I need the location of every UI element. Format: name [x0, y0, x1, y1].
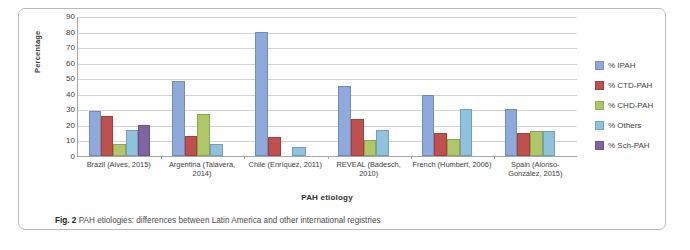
bar-group — [244, 17, 327, 156]
y-axis-tick-label: 30 — [51, 106, 75, 114]
bar-ipah[interactable] — [505, 109, 518, 156]
bar-sch-pah[interactable] — [138, 125, 150, 156]
legend-swatch-icon — [595, 101, 604, 110]
bar-others[interactable] — [543, 131, 556, 156]
y-axis-tick-label: 90 — [51, 13, 75, 21]
legend-swatch-icon — [595, 81, 604, 90]
x-axis-title: PAH etiology — [77, 193, 577, 202]
bar-group — [161, 17, 244, 156]
x-axis-tickmark — [244, 156, 245, 159]
figure-caption-text: PAH etiologies: differences between Lati… — [79, 216, 381, 225]
x-axis-category-label: Chile (Enríquez, 2011) — [244, 160, 327, 190]
bar-group-inner — [172, 17, 234, 156]
legend-label: % CHD-PAH — [608, 101, 653, 110]
chart-gridlines — [77, 17, 577, 157]
y-axis-tick-label: 60 — [51, 60, 75, 68]
y-axis-tick-label: 80 — [51, 29, 75, 37]
legend-label: % CTD-PAH — [608, 81, 652, 90]
y-axis-tick-label: 50 — [51, 75, 75, 83]
legend-item[interactable]: % Sch-PAH — [595, 141, 690, 150]
bar-ipah[interactable] — [255, 32, 268, 156]
bar-others[interactable] — [376, 130, 389, 156]
legend-item[interactable]: % Others — [595, 121, 690, 130]
bar-ipah[interactable] — [338, 86, 351, 156]
bar-ipah[interactable] — [422, 95, 435, 156]
bar-ipah[interactable] — [172, 81, 185, 156]
bar-group — [411, 17, 494, 156]
legend-swatch-icon — [595, 61, 604, 70]
legend-label: % Others — [608, 121, 641, 130]
y-axis-tick-label: 40 — [51, 91, 75, 99]
bar-chd-pah[interactable] — [530, 131, 543, 156]
bar-group — [328, 17, 411, 156]
bar-groups — [78, 17, 577, 156]
bar-others[interactable] — [292, 147, 305, 156]
bar-chd-pah[interactable] — [447, 139, 460, 156]
y-axis-tick-label: 20 — [51, 122, 75, 130]
y-axis-tick-label: 0 — [51, 153, 75, 161]
bar-chd-pah[interactable] — [197, 114, 210, 156]
bar-group-inner — [255, 17, 317, 156]
bar-others[interactable] — [210, 144, 223, 156]
bar-group — [494, 17, 577, 156]
x-axis-category-label: Spain (Alonso-Gonzalez, 2015) — [494, 160, 577, 190]
chart-legend: % IPAH% CTD-PAH% CHD-PAH% Others% Sch-PA… — [595, 61, 690, 161]
x-axis-tickmark — [494, 156, 495, 159]
bar-others[interactable] — [126, 130, 138, 156]
bar-ctd-pah[interactable] — [351, 119, 364, 156]
legend-item[interactable]: % IPAH — [595, 61, 690, 70]
bar-group-inner — [422, 17, 484, 156]
bar-ctd-pah[interactable] — [268, 137, 281, 156]
figure-card: Percentage 9080706050403020100 Brazil (A… — [18, 8, 666, 230]
legend-swatch-icon — [595, 121, 604, 130]
bar-others[interactable] — [460, 109, 473, 156]
chart-plot-area: Percentage 9080706050403020100 Brazil (A… — [37, 17, 577, 192]
legend-label: % Sch-PAH — [608, 141, 650, 150]
legend-swatch-icon — [595, 141, 604, 150]
x-axis-category-label: REVEAL (Badesch, 2010) — [327, 160, 410, 190]
bar-group-inner — [338, 17, 400, 156]
figure-caption-prefix: Fig. 2 — [55, 216, 76, 225]
bar-chd-pah[interactable] — [364, 140, 377, 156]
bar-chd-pah[interactable] — [113, 144, 125, 156]
figure-caption: Fig. 2 PAH etiologies: differences betwe… — [55, 216, 645, 227]
y-axis-ticks: 9080706050403020100 — [37, 17, 75, 157]
x-axis-tickmark — [411, 156, 412, 159]
bar-group-inner — [89, 17, 151, 156]
y-axis-tick-label: 70 — [51, 44, 75, 52]
bar-ipah[interactable] — [89, 111, 101, 156]
bar-ctd-pah[interactable] — [185, 136, 198, 156]
x-axis-category-label: Brazil (Alves, 2015) — [77, 160, 160, 190]
bar-ctd-pah[interactable] — [434, 133, 447, 156]
legend-item[interactable]: % CTD-PAH — [595, 81, 690, 90]
bar-ctd-pah[interactable] — [517, 133, 530, 156]
x-axis-category-label: Argentina (Talavera, 2014) — [160, 160, 243, 190]
legend-label: % IPAH — [608, 61, 635, 70]
x-axis-categories: Brazil (Alves, 2015)Argentina (Talavera,… — [77, 160, 577, 190]
bar-ctd-pah[interactable] — [101, 116, 113, 156]
legend-item[interactable]: % CHD-PAH — [595, 101, 690, 110]
x-axis-category-label: French (Humbert, 2006) — [410, 160, 493, 190]
y-axis-tick-label: 10 — [51, 137, 75, 145]
x-axis-tickmark — [328, 156, 329, 159]
bar-group — [78, 17, 161, 156]
bar-group-inner — [505, 17, 567, 156]
x-axis-tickmark — [161, 156, 162, 159]
